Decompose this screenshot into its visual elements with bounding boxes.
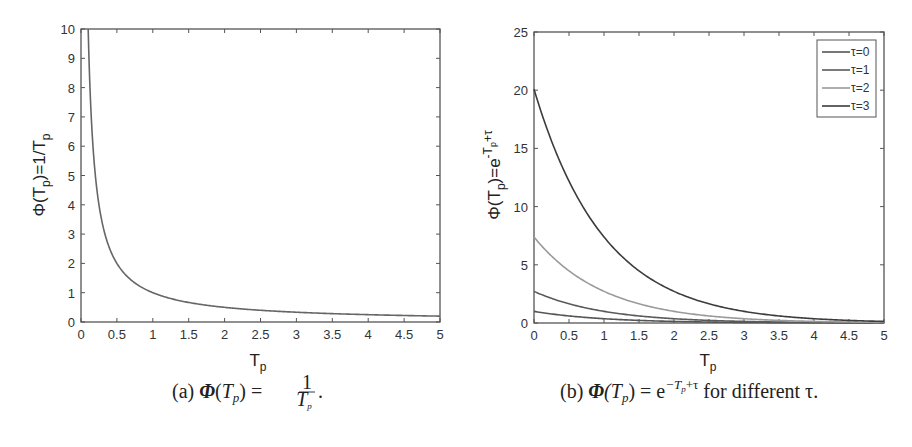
y-tick-label: 20 bbox=[514, 83, 528, 98]
chart-b-caption: (b) Φ(Tp) = e−Tp+τ for different τ. bbox=[560, 377, 818, 405]
y-tick-label: 1 bbox=[68, 286, 75, 301]
y-tick-label: 10 bbox=[61, 22, 75, 37]
chart-a-xtick-labels: 00.511.522.533.544.55 bbox=[77, 327, 443, 342]
chart-b-y-axis-label: Φ(Tp)=e-Tp+τ bbox=[481, 130, 508, 220]
chart-a-ytick-labels: 012345678910 bbox=[61, 22, 75, 330]
y-tick-label: 0 bbox=[68, 315, 75, 330]
chart-b-legend: τ=0τ=1τ=2τ=3 bbox=[817, 40, 876, 117]
y-tick-label: 10 bbox=[514, 200, 528, 215]
y-tick-label: 5 bbox=[521, 258, 528, 273]
x-tick-label: 1.5 bbox=[630, 328, 648, 343]
x-tick-label: 3.5 bbox=[323, 327, 341, 342]
x-tick-label: 0 bbox=[77, 327, 84, 342]
y-tick-label: 4 bbox=[68, 198, 75, 213]
chart-b-ytick-labels: 0510152025 bbox=[514, 25, 528, 331]
y-tick-label: 8 bbox=[68, 81, 75, 96]
y-tick-label: 6 bbox=[68, 139, 75, 154]
chart-a-caption: (a) Φ(Tp) = bbox=[172, 380, 262, 405]
x-tick-label: 5 bbox=[436, 327, 443, 342]
x-tick-label: 0.5 bbox=[108, 327, 126, 342]
y-tick-label: 5 bbox=[68, 169, 75, 184]
legend-label: τ=3 bbox=[851, 99, 870, 113]
x-tick-label: 3 bbox=[293, 327, 300, 342]
legend-label: τ=0 bbox=[851, 45, 870, 59]
y-tick-label: 2 bbox=[68, 256, 75, 271]
x-tick-label: 0 bbox=[530, 328, 537, 343]
x-tick-label: 4 bbox=[810, 328, 817, 343]
y-tick-label: 25 bbox=[514, 25, 528, 40]
figure-canvas: 00.511.522.533.544.55 012345678910 Tp Φ(… bbox=[0, 0, 912, 447]
chart-b-x-axis-label: Tp bbox=[699, 351, 716, 374]
legend-label: τ=2 bbox=[851, 81, 870, 95]
x-tick-label: 4.5 bbox=[395, 327, 413, 342]
chart-b: 00.511.522.533.544.55 0510152025 τ=0τ=1τ… bbox=[481, 25, 888, 405]
x-tick-label: 1 bbox=[600, 328, 607, 343]
x-tick-label: 2.5 bbox=[700, 328, 718, 343]
x-tick-label: 4.5 bbox=[840, 328, 858, 343]
chart-a: 00.511.522.533.544.55 012345678910 Tp Φ(… bbox=[30, 22, 444, 411]
y-tick-label: 9 bbox=[68, 51, 75, 66]
y-tick-label: 3 bbox=[68, 227, 75, 242]
chart-a-plot-area bbox=[81, 29, 440, 322]
x-tick-label: 5 bbox=[880, 328, 887, 343]
legend-label: τ=1 bbox=[851, 63, 870, 77]
chart-a-caption-fraction: 1 Tp . bbox=[296, 371, 323, 411]
chart-b-xtick-labels: 00.511.522.533.544.55 bbox=[530, 328, 887, 343]
x-tick-label: 3.5 bbox=[770, 328, 788, 343]
x-tick-label: 1.5 bbox=[180, 327, 198, 342]
caption-period: . bbox=[318, 380, 323, 402]
y-tick-label: 7 bbox=[68, 110, 75, 125]
x-tick-label: 2.5 bbox=[251, 327, 269, 342]
x-tick-label: 3 bbox=[740, 328, 747, 343]
y-tick-label: 0 bbox=[521, 316, 528, 331]
chart-a-x-axis-label: Tp bbox=[249, 351, 266, 374]
y-tick-label: 15 bbox=[514, 141, 528, 156]
chart-a-y-axis-label: Φ(Tp)=1/Tp bbox=[30, 133, 53, 216]
x-tick-label: 1 bbox=[149, 327, 156, 342]
x-tick-label: 2 bbox=[670, 328, 677, 343]
x-tick-label: 4 bbox=[365, 327, 372, 342]
x-tick-label: 0.5 bbox=[560, 328, 578, 343]
x-tick-label: 2 bbox=[221, 327, 228, 342]
